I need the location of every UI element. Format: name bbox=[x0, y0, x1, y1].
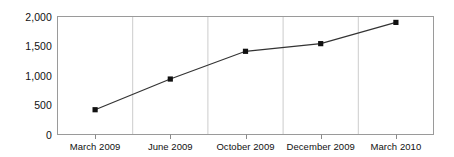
gridlines bbox=[133, 17, 359, 135]
series-polyline bbox=[95, 22, 396, 109]
x-axis-tick-label: March 2009 bbox=[70, 141, 121, 152]
axis-frame bbox=[58, 17, 434, 135]
data-point-marker bbox=[318, 41, 323, 46]
x-axis-ticks bbox=[96, 135, 397, 140]
x-axis-tick-label: June 2009 bbox=[148, 141, 193, 152]
data-point-marker bbox=[243, 49, 248, 54]
line-chart: 2,000 1,500 1,000 500 0 March 2009 June … bbox=[0, 0, 454, 157]
x-axis-tick-label: October 2009 bbox=[216, 141, 274, 152]
x-axis-tick-labels: March 2009 June 2009 October 2009 Decemb… bbox=[0, 141, 454, 157]
data-markers bbox=[93, 20, 399, 113]
data-point-marker bbox=[168, 76, 173, 81]
data-point-marker bbox=[393, 20, 398, 25]
x-axis-tick-label: March 2010 bbox=[371, 141, 422, 152]
x-axis-tick-label: December 2009 bbox=[287, 141, 355, 152]
data-line bbox=[95, 22, 396, 109]
data-point-marker bbox=[93, 107, 98, 112]
plot-area bbox=[0, 0, 454, 157]
